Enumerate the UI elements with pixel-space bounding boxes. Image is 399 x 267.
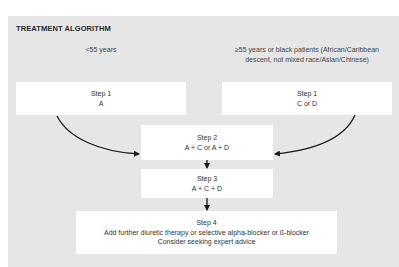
arrow-step1-right-to-step2 xyxy=(275,115,355,154)
arrow-step1-left-to-step2 xyxy=(57,116,139,154)
flow-arrows xyxy=(0,0,399,267)
